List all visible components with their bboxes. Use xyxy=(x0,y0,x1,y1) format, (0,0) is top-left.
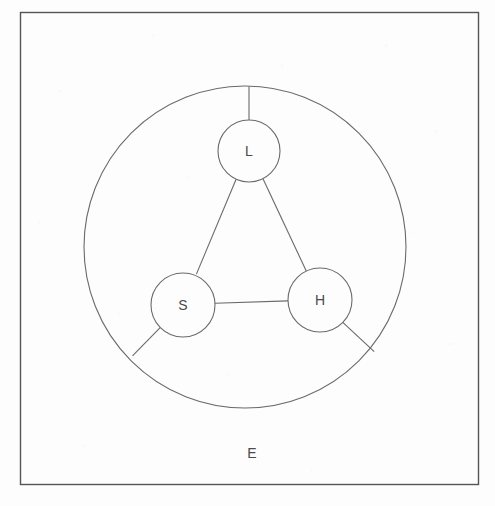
figure-page: L S H E E. Edwards xyxy=(0,0,495,506)
edge-S-H xyxy=(215,301,288,303)
node-label-H: H xyxy=(315,292,325,308)
node-label-S: S xyxy=(178,297,187,313)
node-label-L: L xyxy=(245,143,253,159)
figure-border xyxy=(21,13,479,485)
diagram-canvas: L S H E xyxy=(0,0,495,506)
spoke-S-lower-left xyxy=(133,327,161,355)
edge-L-S xyxy=(196,179,236,274)
edge-L-H xyxy=(263,179,306,272)
spoke-H-lower-right xyxy=(343,322,374,351)
outer-circle-label-E: E xyxy=(247,445,256,461)
